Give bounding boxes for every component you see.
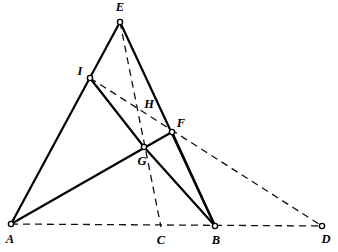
point-label-H: H: [143, 97, 155, 111]
figure-root: ABCDEFGHI: [0, 0, 338, 252]
point-label-F: F: [176, 116, 186, 130]
vertex-G: [141, 144, 146, 149]
vertex-F: [169, 129, 174, 134]
point-label-G: G: [137, 154, 146, 168]
point-label-B: B: [211, 233, 220, 247]
point-label-C: C: [157, 233, 166, 247]
point-label-E: E: [115, 0, 124, 14]
point-label-A: A: [5, 232, 14, 246]
vertex-B: [212, 223, 217, 228]
vertex-D: [319, 223, 324, 228]
geometry-diagram: ABCDEFGHI: [0, 0, 338, 252]
vertex-E: [117, 19, 122, 24]
point-label-D: D: [320, 232, 330, 246]
vertex-A: [8, 221, 13, 226]
vertex-I: [87, 75, 92, 80]
